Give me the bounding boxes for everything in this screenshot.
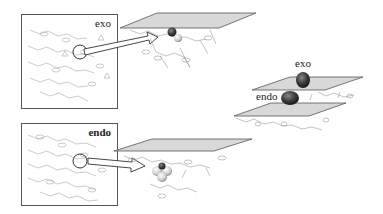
endo-plane — [114, 139, 252, 151]
endo-molecule-lattice — [28, 135, 106, 201]
exo-sphere — [296, 72, 310, 88]
exo-molecule-lattice — [28, 30, 110, 101]
stack-endo-label: endo — [256, 90, 278, 102]
endo-sphere — [281, 91, 299, 105]
exo-guest-sphere — [168, 28, 177, 37]
endo-highlight-circle — [73, 154, 87, 168]
diagram-canvas: exo endo — [0, 0, 383, 214]
exo-zoom-arrow — [84, 32, 158, 55]
exo-guest-atom — [174, 34, 182, 42]
endo-zoom-arrow — [88, 158, 145, 172]
exo-plane — [120, 13, 256, 28]
stack-exo-label: exo — [295, 57, 311, 69]
endo-guest-cluster — [152, 163, 172, 183]
